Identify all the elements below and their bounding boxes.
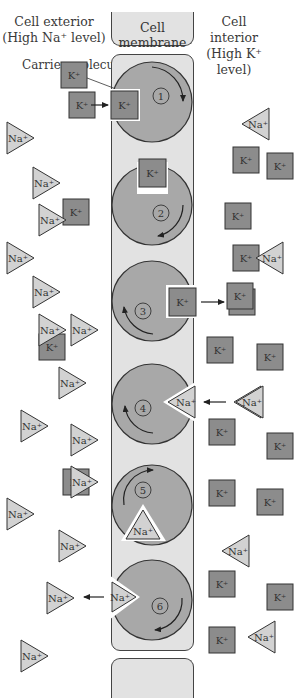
potassium-ion: K⁺ <box>63 199 89 225</box>
potassium-ion: K⁺ <box>257 489 283 515</box>
sodium-ion: Na⁺ <box>33 167 60 199</box>
potassium-ion: K⁺ <box>267 153 293 179</box>
potassium-ion: K⁺ <box>267 433 293 459</box>
svg-text:K⁺: K⁺ <box>214 345 227 356</box>
svg-text:Na⁺: Na⁺ <box>254 632 274 643</box>
svg-text:K⁺: K⁺ <box>240 155 253 166</box>
potassium-ion: K⁺ <box>209 480 235 506</box>
svg-text:3: 3 <box>140 306 146 317</box>
svg-text:4: 4 <box>140 403 146 414</box>
sodium-ion: Na⁺ <box>256 242 283 274</box>
sodium-ion: Na⁺ <box>7 498 34 530</box>
potassium-ion: K⁺ <box>209 419 235 445</box>
svg-text:6: 6 <box>157 601 163 612</box>
svg-text:1: 1 <box>158 91 164 102</box>
svg-text:Na⁺: Na⁺ <box>48 593 68 604</box>
svg-text:K⁺: K⁺ <box>216 427 229 438</box>
svg-text:Na⁺: Na⁺ <box>72 325 92 336</box>
sodium-ion: Na⁺ <box>59 367 86 399</box>
carrier-step-2: K⁺ 2 <box>112 159 192 245</box>
sodium-ion: Na⁺ <box>242 108 269 140</box>
svg-text:Na⁺: Na⁺ <box>72 435 92 446</box>
svg-text:Na⁺: Na⁺ <box>248 119 268 130</box>
potassium-ion: K⁺ <box>209 571 235 597</box>
svg-text:Na⁺: Na⁺ <box>22 651 42 662</box>
svg-text:K⁺: K⁺ <box>264 497 277 508</box>
svg-text:Na⁺: Na⁺ <box>72 477 92 488</box>
sodium-ion: Na⁺ <box>7 242 34 274</box>
svg-text:K⁺: K⁺ <box>274 161 287 172</box>
svg-text:K⁺: K⁺ <box>234 291 247 302</box>
svg-text:K⁺: K⁺ <box>146 168 159 179</box>
sodium-ion: Na⁺ <box>236 386 263 418</box>
svg-text:K⁺: K⁺ <box>240 253 253 264</box>
svg-text:Na⁺: Na⁺ <box>22 421 42 432</box>
svg-text:Na⁺: Na⁺ <box>176 397 196 408</box>
carrier-step-5: Na⁺ 5 <box>112 465 192 545</box>
svg-text:K⁺: K⁺ <box>216 635 229 646</box>
svg-text:K⁺: K⁺ <box>70 207 83 218</box>
carrier-step-6: Na⁺ 6 <box>84 560 192 640</box>
potassium-ion: K⁺ <box>225 203 251 229</box>
potassium-ion: K⁺ <box>227 283 253 309</box>
svg-text:K⁺: K⁺ <box>232 211 245 222</box>
svg-text:K⁺: K⁺ <box>274 441 287 452</box>
sodium-ion: Na⁺ <box>222 535 249 567</box>
sodium-ion: Na⁺ <box>248 621 275 653</box>
svg-text:Na⁺: Na⁺ <box>8 509 28 520</box>
svg-text:Na⁺: Na⁺ <box>8 133 28 144</box>
svg-text:K⁺: K⁺ <box>68 70 81 81</box>
sodium-ion: Na⁺ <box>59 530 86 562</box>
potassium-ion: K⁺ <box>61 62 87 88</box>
svg-text:2: 2 <box>158 208 164 219</box>
svg-text:Na⁺: Na⁺ <box>40 215 60 226</box>
svg-text:K⁺: K⁺ <box>264 352 277 363</box>
sodium-ion: Na⁺ <box>39 204 66 236</box>
potassium-ion: K⁺ <box>207 337 233 363</box>
svg-text:K⁺: K⁺ <box>274 592 287 603</box>
sodium-ion: Na⁺ <box>47 582 74 614</box>
svg-text:Na⁺: Na⁺ <box>8 253 28 264</box>
svg-text:K⁺: K⁺ <box>216 579 229 590</box>
svg-text:Na⁺: Na⁺ <box>34 178 54 189</box>
svg-text:K⁺: K⁺ <box>46 342 59 353</box>
svg-text:Na⁺: Na⁺ <box>34 287 54 298</box>
svg-text:Na⁺: Na⁺ <box>40 325 60 336</box>
sodium-ion: Na⁺ <box>21 640 48 672</box>
svg-text:Na⁺: Na⁺ <box>133 526 153 537</box>
svg-text:Na⁺: Na⁺ <box>60 378 80 389</box>
ion-label: K⁺ <box>118 100 131 111</box>
svg-text:Na⁺: Na⁺ <box>60 541 80 552</box>
svg-text:Na⁺: Na⁺ <box>228 546 248 557</box>
svg-text:Na⁺: Na⁺ <box>242 397 262 408</box>
sodium-ion: Na⁺ <box>71 314 98 346</box>
sodium-ion: Na⁺ <box>7 122 34 154</box>
svg-text:Na⁺: Na⁺ <box>110 592 130 603</box>
sodium-ion: Na⁺ <box>71 424 98 456</box>
sodium-ion: Na⁺ <box>33 276 60 308</box>
svg-text:K⁺: K⁺ <box>216 488 229 499</box>
potassium-ion: K⁺ <box>233 147 259 173</box>
svg-text:K⁺: K⁺ <box>176 297 189 308</box>
potassium-ion: K⁺ <box>257 344 283 370</box>
svg-text:5: 5 <box>140 485 146 496</box>
potassium-ion: K⁺ <box>209 627 235 653</box>
potassium-ion: K⁺ <box>267 584 293 610</box>
svg-text:K⁺: K⁺ <box>76 100 89 111</box>
sodium-ion: Na⁺ <box>21 410 48 442</box>
svg-text:Na⁺: Na⁺ <box>262 253 282 264</box>
